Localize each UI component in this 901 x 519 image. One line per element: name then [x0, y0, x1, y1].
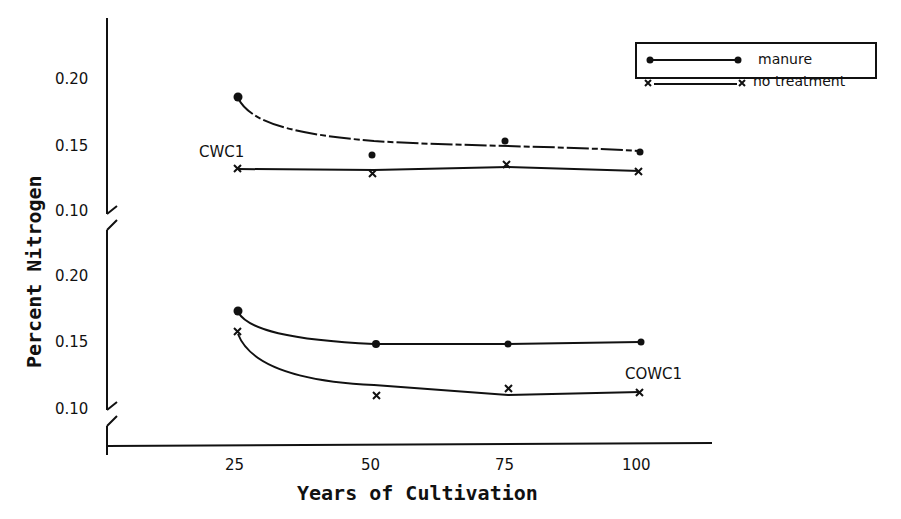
dot-marker — [505, 341, 512, 348]
bottom-manure-curve — [238, 312, 640, 344]
x-tick-100: 100 — [622, 456, 651, 474]
legend-manure-dot-icon — [647, 57, 654, 64]
legend-x-marker-icon — [645, 80, 651, 86]
x-axis — [107, 443, 712, 446]
top-manure-curve — [238, 98, 640, 151]
dot-marker — [502, 138, 509, 145]
dot-marker — [234, 307, 243, 316]
legend-label-manure: manure — [758, 51, 812, 67]
legend-x-marker-icon — [739, 80, 745, 86]
y-tick-top-0.10: 0.10 — [55, 202, 88, 220]
x-marker — [234, 328, 241, 335]
panel-label-cwc1: CWC1 — [199, 143, 244, 161]
dot-marker — [369, 152, 376, 159]
top-no-treatment-line — [238, 167, 640, 171]
dot-marker — [638, 339, 645, 346]
dot-marker — [234, 93, 243, 102]
axis-break-bottom — [107, 402, 117, 426]
y-tick-top-0.20: 0.20 — [55, 70, 88, 88]
dot-marker — [637, 149, 644, 156]
legend-label-no-treatment: no treatment — [753, 73, 846, 89]
dot-marker — [372, 340, 380, 348]
x-marker — [369, 170, 376, 177]
y-tick-bottom-0.10: 0.10 — [55, 400, 88, 418]
y-tick-bottom-0.15: 0.15 — [55, 333, 88, 351]
x-tick-25: 25 — [225, 456, 244, 474]
nitrogen-chart: 0.20 0.15 0.10 0.20 0.15 0.10 25 50 75 1… — [0, 0, 901, 519]
x-tick-50: 50 — [361, 456, 380, 474]
legend: manure no treatment — [636, 43, 876, 89]
x-marker — [373, 392, 380, 399]
bottom-manure-markers — [234, 307, 645, 349]
y-tick-bottom-0.20: 0.20 — [55, 267, 88, 285]
y-axis-title: Percent Nitrogen — [22, 175, 46, 368]
x-tick-75: 75 — [495, 456, 514, 474]
y-tick-top-0.15: 0.15 — [55, 137, 88, 155]
axis-break-top — [107, 206, 117, 230]
panel-label-cowc1: COWC1 — [625, 365, 682, 383]
no-treatment-markers — [234, 161, 643, 399]
legend-manure-dot-icon — [735, 57, 742, 64]
x-axis-title: Years of Cultivation — [297, 481, 538, 505]
x-marker — [505, 385, 512, 392]
